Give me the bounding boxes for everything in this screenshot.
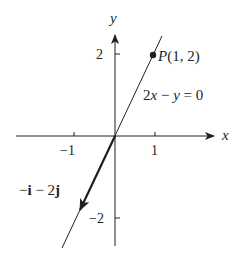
eq-y: y	[171, 87, 180, 103]
vec-j: j	[54, 182, 60, 198]
line-equation-label: 2x − y = 0	[143, 87, 203, 103]
point-p-coords: (1, 2)	[167, 48, 200, 65]
x-tick-label-neg1: −1	[60, 143, 75, 158]
y-axis-label: y	[108, 10, 117, 26]
x-tick-label-1: 1	[151, 143, 158, 158]
vec-mid: − 2	[32, 182, 55, 198]
vector-neg-i-neg-2j	[80, 136, 115, 210]
vec-minus: −	[19, 182, 27, 198]
x-axis-label: x	[221, 127, 229, 143]
y-tick-label-neg2: −2	[89, 211, 104, 226]
point-p-name: P	[157, 48, 167, 64]
eq-minus: −	[157, 87, 173, 103]
point-p	[150, 52, 156, 58]
point-p-label: P(1, 2)	[157, 48, 200, 65]
vector-diagram: −1 1 2 −2 x y P(1, 2) 2x − y = 0 −i − 2j	[0, 0, 241, 260]
eq-coef: 2	[143, 87, 151, 103]
y-tick-label-2: 2	[96, 47, 103, 62]
vector-label: −i − 2j	[19, 182, 60, 198]
eq-rhs: = 0	[180, 87, 203, 103]
